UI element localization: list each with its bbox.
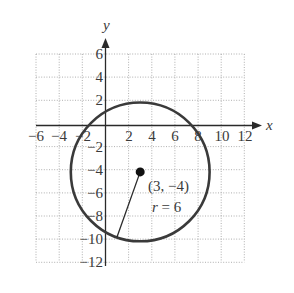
y-tick: −2 xyxy=(87,139,103,155)
x-tick: −6 xyxy=(28,128,44,144)
radius-label: r = 6 xyxy=(152,199,182,215)
x-tick: 2 xyxy=(125,128,133,144)
x-tick: 10 xyxy=(215,128,230,144)
y-tick: −8 xyxy=(87,208,103,224)
center-point xyxy=(136,167,145,176)
y-tick: −4 xyxy=(87,162,103,178)
y-tick: −6 xyxy=(87,185,103,201)
grid xyxy=(36,54,244,262)
x-axis-arrow-icon xyxy=(252,122,262,130)
x-tick: 12 xyxy=(238,128,253,144)
center-label: (3, −4) xyxy=(148,178,189,195)
y-axis-label: y xyxy=(101,17,110,33)
x-tick: −4 xyxy=(51,128,67,144)
x-tick-labels: −6 −4 −2 2 4 6 8 10 12 xyxy=(28,128,252,144)
y-tick: 4 xyxy=(96,69,104,85)
x-axis-label: x xyxy=(265,117,273,133)
x-tick: 6 xyxy=(171,128,179,144)
y-tick-labels: 6 4 2 −2 −4 −6 −8 −10 −12 xyxy=(80,46,104,270)
y-tick: 2 xyxy=(96,92,104,108)
y-tick: −10 xyxy=(80,231,103,247)
radius-value: = 6 xyxy=(158,199,182,215)
coordinate-plane: y x −6 −4 −2 2 4 6 8 10 12 6 4 2 −2 −4 −… xyxy=(0,0,294,293)
x-tick: 4 xyxy=(148,128,156,144)
y-tick: −12 xyxy=(80,254,103,270)
y-tick: 6 xyxy=(96,46,104,62)
